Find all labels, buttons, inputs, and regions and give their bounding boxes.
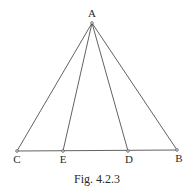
point-b	[176, 149, 179, 152]
point-label-a: A	[88, 7, 96, 19]
figure-caption: Fig. 4.2.3	[74, 172, 120, 186]
segment-cb	[17, 150, 177, 151]
segment-ae	[63, 23, 92, 151]
segment-ad	[92, 23, 128, 151]
segment-ac	[17, 23, 92, 151]
segments	[17, 23, 177, 151]
geometry-diagram: ACEDB Fig. 4.2.3	[0, 0, 192, 193]
point-a	[91, 22, 94, 25]
point-e	[62, 150, 65, 153]
labels: ACEDB	[13, 7, 182, 165]
point-label-e: E	[60, 153, 67, 165]
point-d	[127, 150, 130, 153]
segment-ab	[92, 23, 177, 150]
point-label-d: D	[125, 153, 133, 165]
point-c	[16, 150, 19, 153]
point-label-c: C	[13, 153, 20, 165]
point-label-b: B	[175, 152, 182, 164]
